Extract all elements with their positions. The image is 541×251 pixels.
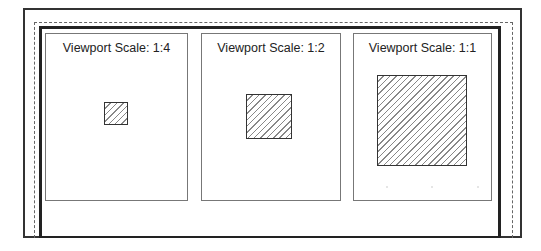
viewport-scale-label: Viewport Scale: 1:2 — [202, 41, 340, 55]
viewport-scale-label: Viewport Scale: 1:4 — [46, 41, 187, 55]
viewport-1-1[interactable]: Viewport Scale: 1:1 — [353, 33, 492, 201]
grid-dot — [431, 186, 433, 188]
viewport-1-4[interactable]: Viewport Scale: 1:4 — [45, 33, 188, 201]
hatched-square[interactable] — [104, 102, 128, 125]
hatched-square[interactable] — [377, 75, 467, 166]
hatched-square[interactable] — [246, 94, 292, 139]
viewport-1-2[interactable]: Viewport Scale: 1:2 — [201, 33, 341, 201]
grid-dot — [386, 186, 388, 188]
grid-dot — [477, 186, 479, 188]
viewport-scale-label: Viewport Scale: 1:1 — [354, 41, 491, 55]
